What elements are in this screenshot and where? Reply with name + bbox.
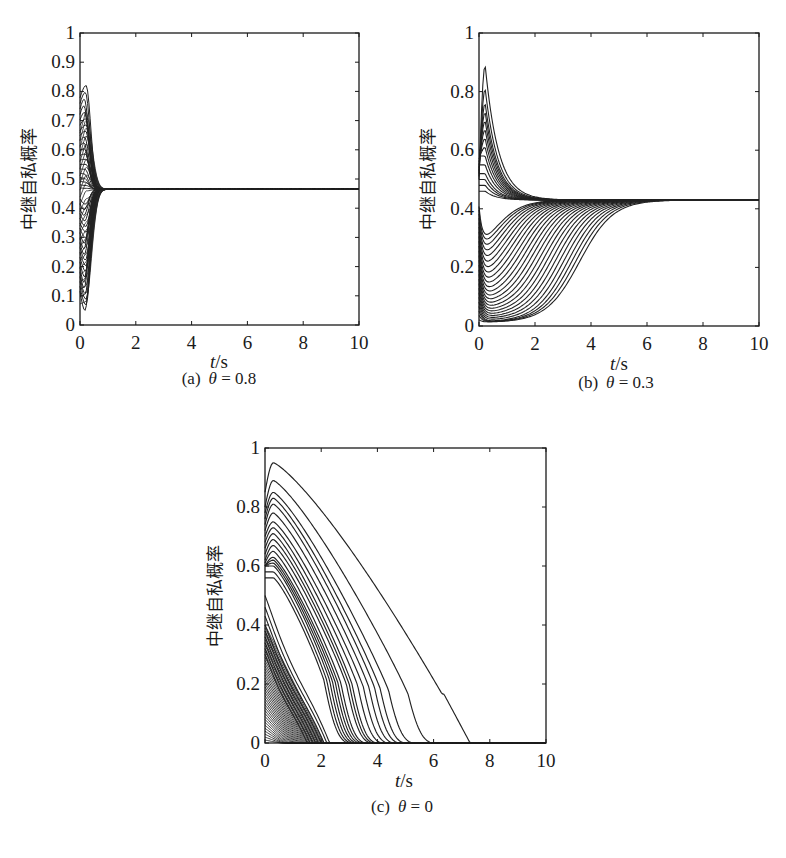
- xlabel-c: t/s: [395, 770, 413, 791]
- trajectory-line: [80, 106, 359, 189]
- y-tick-label: 0.3: [51, 226, 75, 247]
- trajectory-line: [265, 492, 546, 743]
- x-tick-label: 4: [586, 333, 596, 354]
- y-tick-label: 0: [66, 314, 76, 335]
- trajectory-line: [80, 189, 359, 247]
- trajectory-line: [80, 177, 359, 189]
- trajectory-line: [80, 160, 359, 190]
- y-tick-label: 0.4: [236, 614, 260, 635]
- y-tick-label: 0.6: [236, 555, 260, 576]
- trajectory-line: [80, 189, 359, 276]
- trajectory-line: [80, 173, 359, 189]
- y-tick-label: 0.8: [51, 80, 75, 101]
- trajectory-line: [80, 149, 359, 190]
- curves-c: [265, 463, 546, 743]
- plot-frame-c: [265, 448, 546, 743]
- trajectory-line: [80, 175, 359, 190]
- trajectory-line: [80, 189, 359, 275]
- plot-frame-b: [479, 33, 759, 326]
- trajectory-line: [479, 200, 759, 308]
- subplot-a: 024681000.10.20.30.40.50.60.70.80.91 中继自…: [19, 22, 369, 388]
- trajectory-line: [80, 189, 359, 240]
- trajectory-line: [479, 200, 759, 311]
- trajectory-line: [80, 189, 359, 225]
- trajectory-line: [80, 189, 359, 310]
- ylabel-a: 中继自私概率: [19, 128, 39, 230]
- trajectory-line: [80, 189, 359, 290]
- x-tick-label: 0: [260, 750, 270, 771]
- trajectory-line: [80, 189, 359, 254]
- trajectory-line: [479, 122, 759, 200]
- y-tick-label: 0: [465, 315, 475, 336]
- caption-c: (c)θ = 0: [371, 797, 433, 816]
- x-tick-label: 4: [187, 332, 197, 353]
- trajectory-line: [80, 128, 359, 189]
- trajectory-line: [80, 189, 359, 282]
- x-tick-label: 0: [75, 332, 85, 353]
- y-tick-label: 0.5: [51, 168, 75, 189]
- y-tick-label: 0.2: [51, 256, 75, 277]
- caption-a: (a)θ = 0.8: [182, 369, 257, 388]
- caption-b: (b)θ = 0.3: [578, 373, 654, 392]
- y-tick-label: 0: [251, 732, 261, 753]
- trajectory-line: [479, 200, 759, 282]
- trajectory-line: [80, 183, 359, 197]
- y-tick-label: 0.4: [450, 198, 474, 219]
- y-tick-label: 0.6: [450, 139, 474, 160]
- trajectory-line: [80, 189, 359, 204]
- y-tick-label: 0.4: [51, 197, 75, 218]
- y-tick-label: 0.8: [236, 496, 260, 517]
- trajectory-line: [265, 637, 546, 743]
- trajectory-line: [80, 169, 359, 189]
- trajectory-line: [80, 189, 359, 282]
- x-tick-label: 8: [485, 750, 495, 771]
- trajectory-line: [80, 152, 359, 190]
- trajectory-line: [80, 86, 359, 190]
- trajectory-line: [80, 99, 359, 189]
- trajectory-line: [80, 120, 359, 189]
- trajectory-line: [80, 125, 359, 189]
- x-tick-label: 2: [530, 333, 540, 354]
- x-tick-label: 10: [537, 750, 556, 771]
- trajectory-line: [80, 189, 359, 232]
- x-tick-label: 4: [373, 750, 383, 771]
- x-tick-label: 6: [642, 333, 652, 354]
- y-tick-label: 0.1: [51, 285, 75, 306]
- y-tick-label: 1: [66, 22, 76, 43]
- x-tick-label: 6: [243, 332, 253, 353]
- figure: 024681000.10.20.30.40.50.60.70.80.91 中继自…: [0, 0, 786, 858]
- trajectory-line: [80, 189, 359, 268]
- trajectory-line: [80, 189, 359, 243]
- trajectory-line: [479, 105, 759, 200]
- y-tick-label: 0.9: [51, 51, 75, 72]
- trajectory-line: [80, 113, 359, 190]
- trajectory-line: [80, 189, 359, 261]
- x-tick-label: 8: [698, 333, 708, 354]
- y-tick-label: 0.6: [51, 139, 75, 160]
- trajectory-line: [80, 119, 359, 189]
- trajectory-line: [479, 148, 759, 200]
- curves-a: [80, 86, 359, 311]
- ylabel-b: 中继自私概率: [418, 128, 438, 230]
- trajectory-line: [80, 159, 359, 189]
- trajectory-line: [80, 112, 359, 189]
- x-tick-label: 2: [316, 750, 326, 771]
- trajectory-line: [80, 189, 359, 293]
- trajectory-line: [80, 189, 359, 204]
- trajectory-line: [80, 189, 359, 237]
- trajectory-line: [80, 189, 359, 265]
- x-tick-label: 8: [298, 332, 308, 353]
- trajectory-line: [80, 189, 359, 249]
- x-tick-label: 0: [474, 333, 484, 354]
- trajectory-line: [80, 189, 359, 209]
- trajectory-line: [80, 144, 359, 189]
- subplot-b: 024681000.20.40.60.81 中继自私概率 t/s (b)θ = …: [418, 22, 769, 392]
- trajectory-line: [80, 189, 359, 288]
- trajectory-line: [479, 90, 759, 200]
- x-tick-label: 2: [131, 332, 141, 353]
- trajectory-line: [80, 164, 359, 189]
- trajectory-line: [80, 189, 359, 211]
- trajectory-line: [80, 189, 359, 215]
- curves-b: [479, 67, 759, 322]
- y-tick-label: 0.8: [450, 81, 474, 102]
